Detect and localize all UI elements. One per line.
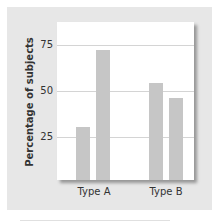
y-tick-50: 50 (31, 85, 53, 96)
y-tick-25: 25 (31, 131, 53, 142)
bar-type-b-series-1 (149, 83, 163, 180)
y-axis-label: Percentage of subjects (24, 37, 35, 167)
bar-type-a-series-2 (96, 50, 110, 180)
bar-type-b-series-2 (169, 98, 183, 180)
y-tick-75: 75 (31, 39, 53, 50)
x-label-type-a: Type A (69, 186, 119, 197)
gridline-75 (57, 45, 194, 46)
x-label-type-b: Type B (141, 186, 191, 197)
gridline-50 (57, 91, 194, 92)
plot-area (57, 22, 194, 180)
divider (20, 220, 170, 221)
bar-type-a-series-1 (76, 127, 90, 180)
